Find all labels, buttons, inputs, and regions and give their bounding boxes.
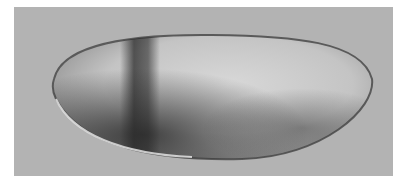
micrograph-frame [14,7,393,176]
embryo-image [42,29,376,161]
